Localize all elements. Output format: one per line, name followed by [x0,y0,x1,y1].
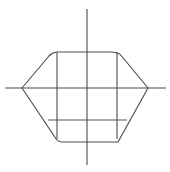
hexagon-outline-path [22,52,148,142]
figure-canvas [0,0,170,172]
cross-section-diagram [0,0,170,172]
